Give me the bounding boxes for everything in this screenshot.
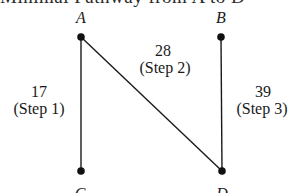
node-label-d: D: [215, 185, 228, 193]
node-label-c: C: [75, 185, 86, 193]
edge-a-d: [81, 37, 222, 171]
edge-weight-a-d: 28: [155, 42, 171, 59]
edge-b-d: [221, 37, 222, 171]
edge-step-b-d: (Step 3): [236, 100, 287, 118]
node-d: [218, 167, 226, 175]
node-b: [217, 33, 225, 41]
node-c: [77, 167, 85, 175]
node-label-b: B: [216, 9, 226, 26]
node-a: [77, 33, 85, 41]
edge-step-a-c: (Step 1): [13, 100, 64, 118]
graph-diagram: A B C D 17 (Step 1) 28 (Step 2) 39 (Step…: [0, 0, 300, 193]
edge-step-a-d: (Step 2): [139, 59, 190, 77]
node-label-a: A: [75, 9, 86, 26]
edge-weight-b-d: 39: [255, 83, 271, 100]
edge-weight-a-c: 17: [31, 83, 47, 100]
